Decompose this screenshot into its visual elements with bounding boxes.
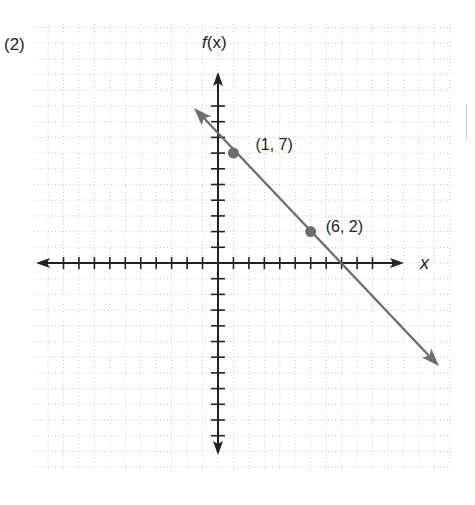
function-argument: (x) bbox=[207, 33, 227, 52]
coordinate-plane bbox=[0, 0, 475, 505]
problem-number: (2) bbox=[4, 35, 25, 55]
point-1-7 bbox=[228, 148, 239, 159]
scan-artifact-line bbox=[466, 104, 467, 140]
point-label-6-2: (6, 2) bbox=[326, 218, 363, 236]
x-axis-label: x bbox=[420, 253, 429, 274]
point-label-1-7: (1, 7) bbox=[255, 136, 292, 154]
y-axis-label: f(x) bbox=[202, 33, 227, 53]
point-6-2 bbox=[305, 226, 316, 237]
